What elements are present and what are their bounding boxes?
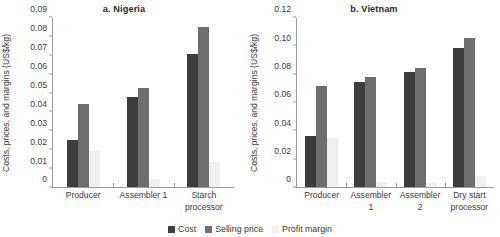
y-tick-label: 0.04	[274, 118, 296, 127]
y-tick-label: 0	[42, 175, 52, 184]
plot-area-nigeria: 00.010.020.030.040.050.060.070.080.09	[52, 18, 234, 188]
x-axis-label: Assembler 1	[346, 190, 395, 216]
x-axis-label: Starch processor	[174, 190, 234, 216]
y-tick-mark	[49, 149, 52, 150]
y-tick-label: 0.08	[274, 62, 296, 71]
bar-margin[interactable]	[149, 179, 160, 187]
y-tick-mark	[293, 45, 296, 46]
y-tick-label: 0.03	[30, 118, 52, 127]
x-axis-labels-nigeria: ProducerAssembler 1Starch processor	[53, 190, 234, 216]
x-tick-mark	[445, 183, 446, 188]
y-tick-label: 0.10	[274, 33, 296, 42]
legend-label: Cost	[178, 224, 196, 234]
legend-swatch-icon	[205, 226, 212, 233]
bar-group	[113, 18, 173, 187]
y-axis-label-text: Costs, prices, and margins (US$/kg)	[1, 34, 11, 172]
chart-panel-nigeria: a. Nigeria Costs, prices, and margins (U…	[0, 0, 248, 216]
y-tick-label: 0.06	[30, 62, 52, 71]
y-tick-mark	[293, 158, 296, 159]
x-axis-label: Producer	[297, 190, 346, 216]
bar-groups-vietnam	[297, 18, 494, 187]
x-tick-mark	[346, 183, 347, 188]
bar-cost[interactable]	[404, 72, 415, 187]
y-tick-label: 0	[286, 175, 296, 184]
y-tick-label: 0.02	[30, 137, 52, 146]
y-tick-mark	[49, 111, 52, 112]
legend-item-selling[interactable]: Selling price	[205, 224, 263, 234]
y-axis-label-nigeria: Costs, prices, and margins (US$/kg)	[0, 14, 13, 192]
bar-cost[interactable]	[67, 140, 78, 187]
y-tick-mark	[49, 17, 52, 18]
bar-selling[interactable]	[316, 86, 327, 187]
y-tick-label: 0.04	[30, 100, 52, 109]
x-axis-line	[52, 187, 234, 188]
y-tick-mark	[49, 35, 52, 36]
bar-group	[174, 18, 234, 187]
x-tick-mark	[174, 183, 175, 188]
y-tick-mark	[49, 130, 52, 131]
bar-group	[297, 18, 346, 187]
x-axis-label: Producer	[53, 190, 113, 216]
bar-cost[interactable]	[127, 97, 138, 187]
y-tick-label: 0.02	[274, 147, 296, 156]
y-axis-label-text: Costs, prices, and margins (US$/kg)	[249, 34, 259, 172]
y-tick-mark	[293, 102, 296, 103]
y-tick-mark	[293, 17, 296, 18]
bar-margin[interactable]	[376, 182, 387, 187]
bar-selling[interactable]	[365, 77, 376, 187]
bar-margin[interactable]	[475, 176, 486, 187]
bar-group	[53, 18, 113, 187]
bar-selling[interactable]	[198, 27, 209, 187]
chart-legend: CostSelling priceProfit margin	[0, 224, 500, 234]
bar-selling[interactable]	[464, 38, 475, 187]
bar-margin[interactable]	[426, 183, 437, 187]
y-axis-label-vietnam: Costs, prices, and margins (US$/kg)	[247, 14, 261, 192]
legend-item-margin[interactable]: Profit margin	[272, 224, 332, 234]
y-tick-label: 0.12	[274, 5, 296, 14]
bar-groups-nigeria	[53, 18, 234, 187]
x-axis-label: Dry start processor	[445, 190, 494, 216]
y-tick-label: 0.05	[30, 81, 52, 90]
y-tick-label: 0.09	[30, 5, 52, 14]
bar-cost[interactable]	[354, 82, 365, 187]
legend-label: Profit margin	[282, 224, 332, 234]
x-tick-mark	[396, 183, 397, 188]
bar-selling[interactable]	[138, 88, 149, 187]
bar-group	[396, 18, 445, 187]
x-axis-labels-vietnam: ProducerAssembler 1Assembler 2Dry start …	[297, 190, 494, 216]
y-tick-mark	[49, 92, 52, 93]
bar-group	[346, 18, 395, 187]
y-tick-mark	[49, 54, 52, 55]
x-axis-label: Assembler 1	[113, 190, 173, 216]
chart-panel-vietnam: b. Vietnam Costs, prices, and margins (U…	[248, 0, 500, 216]
bar-selling[interactable]	[78, 104, 89, 187]
bar-margin[interactable]	[89, 151, 100, 187]
y-tick-mark	[293, 73, 296, 74]
bar-cost[interactable]	[305, 136, 316, 187]
y-tick-label: 0.01	[30, 156, 52, 165]
y-tick-mark	[293, 187, 296, 188]
bar-group	[445, 18, 494, 187]
bar-cost[interactable]	[453, 48, 464, 187]
figure-root: a. Nigeria Costs, prices, and margins (U…	[0, 0, 500, 237]
legend-item-cost[interactable]: Cost	[168, 224, 196, 234]
legend-swatch-icon	[272, 226, 279, 233]
y-tick-mark	[293, 130, 296, 131]
y-tick-mark	[49, 168, 52, 169]
y-tick-label: 0.06	[274, 90, 296, 99]
y-tick-mark	[49, 73, 52, 74]
legend-label: Selling price	[215, 224, 263, 234]
y-tick-mark	[49, 187, 52, 188]
bar-selling[interactable]	[415, 68, 426, 187]
bar-margin[interactable]	[209, 162, 220, 187]
bar-cost[interactable]	[187, 54, 198, 187]
x-axis-label: Assembler 2	[396, 190, 445, 216]
bar-margin[interactable]	[327, 138, 338, 187]
y-tick-label: 0.07	[30, 43, 52, 52]
y-tick-label: 0.08	[30, 24, 52, 33]
plot-area-vietnam: 00.020.040.060.080.100.12	[296, 18, 494, 188]
x-tick-mark	[113, 183, 114, 188]
legend-swatch-icon	[168, 226, 175, 233]
